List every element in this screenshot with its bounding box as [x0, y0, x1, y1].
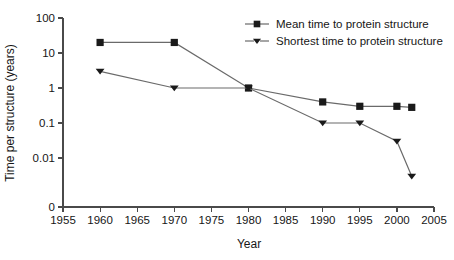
series-line [100, 71, 412, 176]
data-point-marker-square [254, 21, 261, 28]
data-point-marker-square [171, 39, 178, 46]
data-point-marker-square [408, 104, 415, 111]
legend-item: Mean time to protein structure [245, 18, 429, 30]
x-axis-tick-label: 1975 [199, 214, 225, 226]
x-axis-tick-label: 2005 [421, 214, 447, 226]
legend-label: Shortest time to protein structure [276, 35, 443, 47]
x-axis-tick-label: 1960 [87, 214, 113, 226]
y-axis-tick-label: 10 [42, 47, 55, 59]
series-line [100, 42, 412, 107]
series-layer [96, 39, 416, 180]
chart-series-2 [96, 69, 416, 180]
y-axis-tick-label: 0 [49, 201, 55, 213]
x-axis-title: Year [237, 237, 261, 251]
y-axis-tick-label: 1 [49, 82, 55, 94]
x-axis-tick-label: 1970 [162, 214, 188, 226]
data-point-marker-triangle [407, 174, 416, 180]
chart-container: 1001010.10.01019551960196519701975198019… [0, 0, 454, 260]
axes-layer [58, 18, 434, 212]
legend-label: Mean time to protein structure [276, 18, 429, 30]
data-point-marker-square [356, 103, 363, 110]
x-axis-tick-label: 1995 [347, 214, 373, 226]
y-axis-tick-label: 0.1 [39, 117, 55, 129]
x-axis-tick-label: 2000 [384, 214, 410, 226]
y-axis-tick-label: 100 [36, 12, 55, 24]
x-axis-tick-label: 1965 [124, 214, 150, 226]
data-point-marker-square [393, 103, 400, 110]
x-axis-tick-label: 1955 [50, 214, 76, 226]
data-point-marker-square [97, 39, 104, 46]
data-point-marker-triangle [253, 39, 261, 44]
data-point-marker-square [319, 98, 326, 105]
x-axis-tick-label: 1980 [236, 214, 262, 226]
y-axis-title: Time per structure (years) [3, 44, 17, 182]
legend-item: Shortest time to protein structure [245, 35, 443, 47]
chart-legend: Mean time to protein structureShortest t… [245, 18, 443, 47]
y-axis-tick-label: 0.01 [33, 152, 55, 164]
x-axis-tick-label: 1985 [273, 214, 299, 226]
x-axis-tick-label: 1990 [310, 214, 336, 226]
line-chart-plot: 1001010.10.01019551960196519701975198019… [0, 0, 454, 260]
data-point-marker-triangle [393, 139, 402, 145]
chart-series-1 [97, 39, 416, 111]
